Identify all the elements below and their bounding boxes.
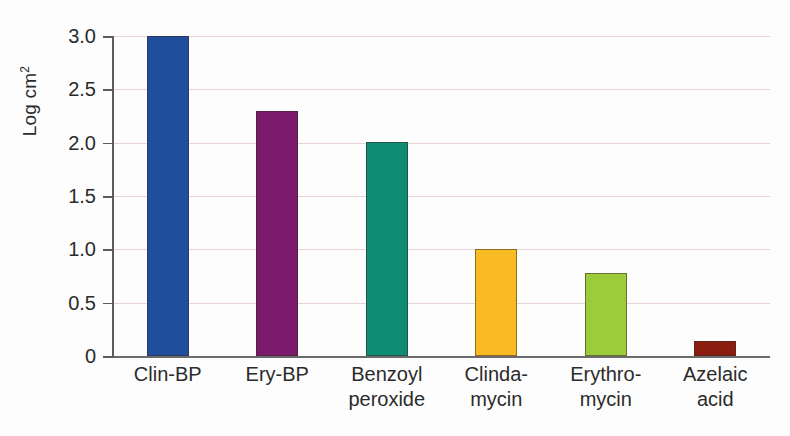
- y-axis-tick-mark: [103, 356, 114, 358]
- x-axis-label-line1: Erythro-: [570, 363, 641, 385]
- y-axis-tick-label: 0.5: [36, 293, 96, 313]
- x-axis-label-line1: Ery-BP: [246, 363, 309, 385]
- y-axis-tick-label: 1.0: [36, 239, 96, 259]
- x-axis-line: [113, 356, 770, 358]
- x-axis-label-line1: Clinda-: [465, 363, 528, 385]
- x-axis-label-line2: acid: [661, 387, 771, 412]
- y-axis-title-superscript: 2: [18, 66, 32, 73]
- x-axis-label: Clinda-mycin: [442, 362, 552, 412]
- bar: [585, 273, 627, 356]
- y-axis-tick-label: 2.5: [36, 79, 96, 99]
- bar: [147, 36, 189, 356]
- x-axis-label-line1: Azelaic: [683, 363, 747, 385]
- y-axis-tick-label: 2.0: [36, 133, 96, 153]
- x-axis-label-line1: Clin-BP: [134, 363, 202, 385]
- x-axis-label: Benzoylperoxide: [332, 362, 442, 412]
- x-axis-label: Ery-BP: [223, 362, 333, 387]
- bar: [366, 142, 408, 356]
- x-axis-label-line1: Benzoyl: [351, 363, 422, 385]
- y-axis-tick-label: 3.0: [36, 26, 96, 46]
- bars-group: [113, 36, 770, 356]
- bar: [256, 111, 298, 356]
- x-axis-label-line2: mycin: [442, 387, 552, 412]
- x-axis-label: Erythro-mycin: [551, 362, 661, 412]
- y-axis-tick-label: 0: [36, 346, 96, 366]
- x-axis-label: Azelaicacid: [661, 362, 771, 412]
- y-axis-tick-label: 1.5: [36, 186, 96, 206]
- x-axis-category-labels: Clin-BPEry-BPBenzoylperoxideClinda-mycin…: [113, 362, 770, 432]
- bar: [475, 249, 517, 356]
- x-axis-label: Clin-BP: [113, 362, 223, 387]
- bar-chart: Log cm2 00.51.01.52.02.53.0 Clin-BPEry-B…: [0, 0, 790, 436]
- bar: [694, 341, 736, 356]
- x-axis-label-line2: mycin: [551, 387, 661, 412]
- x-axis-label-line2: peroxide: [332, 387, 442, 412]
